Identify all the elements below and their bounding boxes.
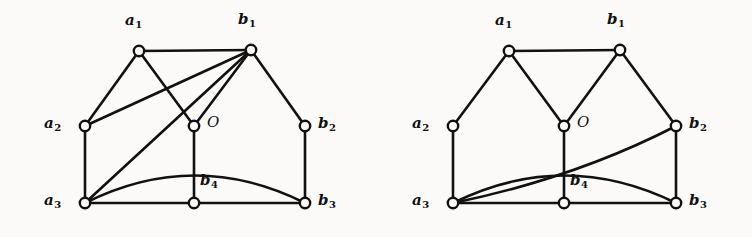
vertex-node-b4[interactable] <box>559 198 569 208</box>
edge-a1-b1 <box>509 50 620 51</box>
vertex-label-a2: a2 <box>412 116 429 133</box>
graph-figure: a1b1a2Ob2a3b4b3a1b1a2Ob2a3b4b3 <box>0 0 752 237</box>
vertex-node-a3[interactable] <box>448 198 458 208</box>
vertex-label-subscript: 1 <box>249 18 256 29</box>
vertex-node-a2[interactable] <box>80 121 90 131</box>
vertex-label-subscript: 3 <box>700 199 707 210</box>
vertex-node-a3[interactable] <box>80 198 90 208</box>
vertex-node-b1[interactable] <box>615 45 625 55</box>
vertex-label-O: O <box>207 115 219 130</box>
edge-b1-b2 <box>620 50 676 126</box>
edge-b1-O <box>564 50 620 126</box>
vertex-label-base: b <box>200 171 211 189</box>
vertex-node-b4[interactable] <box>189 198 199 208</box>
vertex-label-subscript: 2 <box>422 122 429 133</box>
vertex-node-b2[interactable] <box>300 121 310 131</box>
vertex-label-a3: a3 <box>412 193 429 210</box>
vertex-node-O[interactable] <box>559 121 569 131</box>
vertex-label-subscript: 4 <box>211 179 218 190</box>
vertex-label-base: O <box>207 113 219 131</box>
vertex-label-subscript: 3 <box>54 199 61 210</box>
vertex-label-b1: b1 <box>607 12 625 29</box>
vertex-node-b3[interactable] <box>671 198 681 208</box>
vertex-label-subscript: 2 <box>700 122 707 133</box>
vertex-node-b2[interactable] <box>671 121 681 131</box>
vertex-label-subscript: 4 <box>581 179 588 190</box>
vertex-label-a1: a1 <box>125 13 142 30</box>
vertex-label-subscript: 2 <box>329 122 336 133</box>
vertex-node-a2[interactable] <box>448 121 458 131</box>
vertex-label-base: a <box>44 114 54 132</box>
vertex-label-base: b <box>318 191 329 209</box>
vertex-label-a3: a3 <box>44 193 61 210</box>
vertex-label-a2: a2 <box>44 116 61 133</box>
vertex-label-base: b <box>607 10 618 28</box>
vertex-label-b4: b4 <box>570 173 588 190</box>
vertex-label-subscript: 1 <box>505 19 512 30</box>
vertex-label-base: O <box>577 113 589 131</box>
vertex-label-base: b <box>238 10 249 28</box>
vertex-label-subscript: 1 <box>618 18 625 29</box>
vertex-label-b1: b1 <box>238 12 256 29</box>
left-graph <box>80 45 310 208</box>
vertex-label-base: b <box>570 171 581 189</box>
vertex-label-base: a <box>495 11 505 29</box>
vertex-label-base: b <box>689 114 700 132</box>
vertex-label-base: a <box>412 191 422 209</box>
vertex-node-b3[interactable] <box>300 198 310 208</box>
edge-a1-b1 <box>139 50 251 51</box>
vertex-label-b2: b2 <box>689 116 707 133</box>
vertex-label-base: a <box>44 191 54 209</box>
edge-b1-O <box>194 50 251 126</box>
graph-canvas <box>0 0 752 237</box>
vertex-node-O[interactable] <box>189 121 199 131</box>
edge-b1-a2 <box>85 50 251 126</box>
edge-b1-b2 <box>251 50 305 126</box>
vertex-label-b3: b3 <box>318 193 336 210</box>
vertex-label-base: b <box>318 114 329 132</box>
vertex-node-a1[interactable] <box>134 46 144 56</box>
edge-a1-a2 <box>453 51 509 126</box>
vertex-label-subscript: 3 <box>329 199 336 210</box>
vertex-label-b4: b4 <box>200 173 218 190</box>
vertex-label-base: b <box>689 191 700 209</box>
vertex-node-b1[interactable] <box>246 45 256 55</box>
edge-b1-a3 <box>85 50 251 203</box>
right-graph <box>448 45 681 208</box>
vertex-label-O: O <box>577 115 589 130</box>
vertex-label-base: a <box>412 114 422 132</box>
vertex-label-a1: a1 <box>495 13 512 30</box>
vertex-label-b2: b2 <box>318 116 336 133</box>
vertex-label-subscript: 2 <box>54 122 61 133</box>
edge-a1-O <box>509 51 564 126</box>
vertex-node-a1[interactable] <box>504 46 514 56</box>
vertex-label-subscript: 1 <box>135 19 142 30</box>
vertex-label-base: a <box>125 11 135 29</box>
vertex-label-b3: b3 <box>689 193 707 210</box>
vertex-label-subscript: 3 <box>422 199 429 210</box>
